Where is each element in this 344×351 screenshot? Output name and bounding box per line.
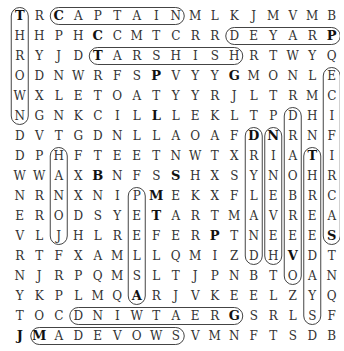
grid-letter[interactable]: S xyxy=(147,166,167,186)
grid-letter[interactable]: W xyxy=(147,326,167,346)
grid-letter[interactable]: D xyxy=(30,66,50,86)
grid-letter[interactable]: H xyxy=(186,166,206,186)
grid-letter[interactable]: T xyxy=(264,266,284,286)
grid-letter[interactable]: T xyxy=(147,206,167,226)
grid-letter[interactable]: A xyxy=(166,306,186,326)
grid-letter[interactable]: H xyxy=(69,26,89,46)
grid-letter[interactable]: P xyxy=(322,26,342,46)
grid-letter[interactable]: R xyxy=(108,226,128,246)
grid-letter[interactable]: P xyxy=(49,26,69,46)
grid-letter[interactable]: I xyxy=(264,146,284,166)
grid-letter[interactable]: O xyxy=(10,66,30,86)
grid-letter[interactable]: G xyxy=(30,106,50,126)
grid-letter[interactable]: T xyxy=(108,6,128,26)
grid-letter[interactable]: N xyxy=(283,66,303,86)
grid-letter[interactable]: A xyxy=(49,326,69,346)
grid-letter[interactable]: M xyxy=(244,66,264,86)
grid-letter[interactable]: W xyxy=(283,46,303,66)
grid-letter[interactable]: I xyxy=(108,306,128,326)
grid-letter[interactable]: F xyxy=(322,126,342,146)
grid-letter[interactable]: Q xyxy=(88,266,108,286)
grid-letter[interactable]: J xyxy=(49,46,69,66)
grid-letter[interactable]: A xyxy=(127,6,147,26)
grid-letter[interactable]: Y xyxy=(303,46,323,66)
grid-letter[interactable]: T xyxy=(322,246,342,266)
grid-letter[interactable]: N xyxy=(10,186,30,206)
grid-letter[interactable]: W xyxy=(30,166,50,186)
grid-letter[interactable]: R xyxy=(205,26,225,46)
grid-letter[interactable]: E xyxy=(166,186,186,206)
grid-letter[interactable]: K xyxy=(69,106,89,126)
grid-letter[interactable]: S xyxy=(283,326,303,346)
grid-letter[interactable]: L xyxy=(147,106,167,126)
grid-letter[interactable]: K xyxy=(30,286,50,306)
grid-letter[interactable]: A xyxy=(166,126,186,146)
grid-letter[interactable]: C xyxy=(49,306,69,326)
grid-letter[interactable]: S xyxy=(244,306,264,326)
grid-letter[interactable]: B xyxy=(322,326,342,346)
grid-letter[interactable]: W xyxy=(69,66,89,86)
grid-letter[interactable]: P xyxy=(88,6,108,26)
grid-letter[interactable]: C xyxy=(49,6,69,26)
grid-letter[interactable]: V xyxy=(30,126,50,146)
grid-letter[interactable]: P xyxy=(49,286,69,306)
grid-letter[interactable]: X xyxy=(205,186,225,206)
grid-letter[interactable]: F xyxy=(69,146,89,166)
grid-letter[interactable]: T xyxy=(147,146,167,166)
grid-letter[interactable]: S xyxy=(166,326,186,346)
grid-letter[interactable]: A xyxy=(322,206,342,226)
grid-letter[interactable]: L xyxy=(205,6,225,26)
grid-letter[interactable]: Y xyxy=(108,206,128,226)
grid-letter[interactable]: T xyxy=(244,106,264,126)
grid-letter[interactable]: M xyxy=(30,326,50,346)
grid-letter[interactable]: Q xyxy=(322,46,342,66)
grid-letter[interactable]: Y xyxy=(244,166,264,186)
grid-letter[interactable]: W xyxy=(10,86,30,106)
grid-letter[interactable]: E xyxy=(244,286,264,306)
grid-letter[interactable]: N xyxy=(166,6,186,26)
grid-letter[interactable]: G xyxy=(225,66,245,86)
grid-letter[interactable]: O xyxy=(186,126,206,146)
grid-letter[interactable]: N xyxy=(49,186,69,206)
grid-letter[interactable]: T xyxy=(147,86,167,106)
grid-letter[interactable]: A xyxy=(283,146,303,166)
grid-letter[interactable]: R xyxy=(147,286,167,306)
grid-letter[interactable]: A xyxy=(49,166,69,186)
grid-letter[interactable]: T xyxy=(264,86,284,106)
grid-letter[interactable]: W xyxy=(186,146,206,166)
grid-letter[interactable]: N xyxy=(108,166,128,186)
grid-letter[interactable]: L xyxy=(147,246,167,266)
grid-letter[interactable]: B xyxy=(244,266,264,286)
grid-letter[interactable]: I xyxy=(322,106,342,126)
grid-letter[interactable]: R xyxy=(30,6,50,26)
grid-letter[interactable]: M xyxy=(303,86,323,106)
grid-letter[interactable]: P xyxy=(69,266,89,286)
grid-letter[interactable]: F xyxy=(127,166,147,186)
grid-letter[interactable]: E xyxy=(69,86,89,106)
grid-letter[interactable]: D xyxy=(244,126,264,146)
grid-letter[interactable]: S xyxy=(127,266,147,286)
grid-letter[interactable]: M xyxy=(205,326,225,346)
grid-letter[interactable]: O xyxy=(30,306,50,326)
grid-letter[interactable]: T xyxy=(88,46,108,66)
grid-letter[interactable]: L xyxy=(127,106,147,126)
grid-letter[interactable]: N xyxy=(49,106,69,126)
grid-letter[interactable]: E xyxy=(225,286,245,306)
grid-letter[interactable]: V xyxy=(166,66,186,86)
grid-letter[interactable]: C xyxy=(166,26,186,46)
grid-letter[interactable]: F xyxy=(225,126,245,146)
grid-letter[interactable]: V xyxy=(108,326,128,346)
grid-letter[interactable]: I xyxy=(186,46,206,66)
grid-letter[interactable]: S xyxy=(127,66,147,86)
grid-letter[interactable]: M xyxy=(186,246,206,266)
grid-letter[interactable]: F xyxy=(225,186,245,206)
grid-letter[interactable]: B xyxy=(88,166,108,186)
grid-letter[interactable]: N xyxy=(49,66,69,86)
grid-letter[interactable]: S xyxy=(147,46,167,66)
grid-letter[interactable]: X xyxy=(225,146,245,166)
grid-letter[interactable]: X xyxy=(30,86,50,106)
grid-letter[interactable]: V xyxy=(186,326,206,346)
grid-letter[interactable]: E xyxy=(264,186,284,206)
grid-letter[interactable]: L xyxy=(147,266,167,286)
grid-letter[interactable]: E xyxy=(186,106,206,126)
